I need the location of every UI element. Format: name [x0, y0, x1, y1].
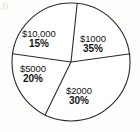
- pie-chart-screenshot: J) $1000 35% $2000 30% $5000 20% $10,000…: [0, 0, 140, 132]
- pie-slice-percent-5000: 20%: [20, 74, 46, 85]
- pie-slice-label-5000: $5000 20%: [20, 64, 46, 85]
- pie-slice-percent-1000: 35%: [80, 44, 106, 55]
- pie-slice-label-2000: $2000 30%: [66, 86, 92, 107]
- pie-slice-label-1000: $1000 35%: [80, 34, 106, 55]
- pie-slice-percent-10000: 15%: [22, 39, 56, 50]
- pie-slice-percent-2000: 30%: [66, 96, 92, 107]
- pie-slice-label-10000: $10,000 15%: [22, 29, 56, 50]
